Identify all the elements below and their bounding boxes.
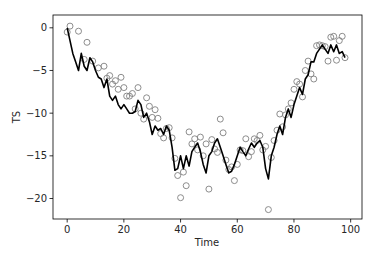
y-axis-label: TS <box>11 111 22 124</box>
y-tick-label: 0 <box>41 22 47 33</box>
y-axis-ticks: 0−5−10−15−20 <box>26 22 53 204</box>
y-tick-label: −20 <box>26 193 47 204</box>
x-tick-label: 0 <box>64 224 70 235</box>
y-tick-label: −5 <box>32 65 47 76</box>
y-tick-label: −15 <box>26 150 47 161</box>
x-tick-label: 80 <box>288 224 301 235</box>
x-tick-label: 20 <box>118 224 131 235</box>
x-tick-label: 60 <box>231 224 244 235</box>
x-tick-label: 40 <box>174 224 187 235</box>
plot-background <box>53 15 362 219</box>
x-axis-ticks: 020406080100 <box>64 219 360 235</box>
x-tick-label: 100 <box>341 224 360 235</box>
chart: 020406080100 0−5−10−15−20 Time TS <box>0 0 377 257</box>
x-axis-label: Time <box>194 237 219 248</box>
y-tick-label: −10 <box>26 108 47 119</box>
